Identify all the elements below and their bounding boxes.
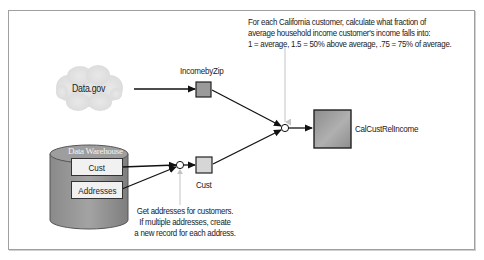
node-cust — [196, 157, 212, 173]
edge-incomebyzip-join2 — [212, 90, 281, 126]
edge-cust-join1 — [122, 165, 176, 167]
warehouse-title: Data Warehouse — [68, 146, 123, 156]
top-note-line: For each California customer, calculate … — [248, 17, 424, 28]
edge-cust-join2 — [213, 130, 281, 164]
bottom-note: Get addresses for customers. If multiple… — [128, 206, 242, 239]
calcustrelincome-label: CalCustRelIncome — [355, 123, 418, 134]
cust-label: Cust — [196, 179, 212, 190]
bottom-note-line: Get addresses for customers. — [128, 206, 242, 217]
edge-addresses-join1 — [122, 167, 176, 189]
cloud-label: Data.gov — [72, 83, 105, 94]
bottom-note-line: If multiple addresses, create — [128, 217, 242, 228]
bottom-note-line: a new record for each address. — [128, 228, 242, 239]
join-node-1 — [176, 161, 183, 168]
note-pointer-bottom-head — [177, 169, 183, 174]
table-addresses: Addresses — [71, 181, 123, 199]
join-node-2 — [281, 124, 288, 131]
top-note-line: 1 = average, 1.5 = 50% above average, .7… — [248, 39, 424, 50]
node-calcustrelincome — [314, 110, 351, 148]
table-cust-label: Cust — [89, 162, 106, 173]
top-note: For each California customer, calculate … — [248, 17, 424, 50]
incomebyzip-label: IncomebyZip — [180, 65, 223, 76]
top-note-line: average household income customer's inco… — [248, 28, 424, 39]
table-addresses-label: Addresses — [78, 185, 116, 196]
table-cust: Cust — [71, 158, 123, 176]
node-incomebyzip — [196, 82, 211, 97]
